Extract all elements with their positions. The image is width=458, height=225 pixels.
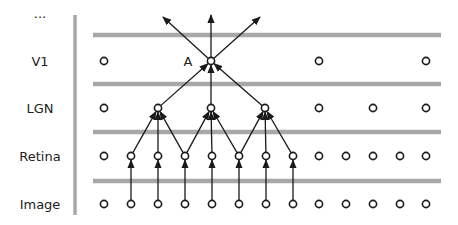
node-retina <box>369 152 376 159</box>
node-image <box>422 200 429 207</box>
node-image <box>127 200 134 207</box>
edge-arrow <box>265 112 266 152</box>
node-retina <box>289 152 296 159</box>
output-arrow <box>214 17 260 59</box>
node-lgn <box>154 104 161 111</box>
node-v1 <box>315 57 322 64</box>
node-image <box>154 200 161 207</box>
output-arrow <box>163 17 208 59</box>
node-retina <box>208 152 215 159</box>
node-retina <box>181 152 188 159</box>
layer-label-v1: V1 <box>31 54 48 69</box>
node-retina <box>154 152 161 159</box>
node-v1 <box>207 57 214 64</box>
node-lgn <box>207 104 214 111</box>
node-retina <box>342 152 349 159</box>
node-image <box>262 200 269 207</box>
node-v1 <box>100 57 107 64</box>
node-lgn <box>422 104 429 111</box>
node-image <box>315 200 322 207</box>
edge-arrow <box>211 112 212 152</box>
node-image <box>342 200 349 207</box>
node-image <box>100 200 107 207</box>
node-image <box>396 200 403 207</box>
node-lgn <box>369 104 376 111</box>
node-lgn <box>261 104 268 111</box>
node-label-a: A <box>184 54 193 69</box>
node-v1 <box>422 57 429 64</box>
node-lgn <box>315 104 322 111</box>
node-retina <box>100 152 107 159</box>
layer-label-top-ellipsis: ... <box>34 6 46 21</box>
node-retina <box>396 152 403 159</box>
layer-label-lgn: LGN <box>26 101 53 116</box>
node-retina <box>235 152 242 159</box>
node-retina <box>262 152 269 159</box>
node-retina <box>315 152 322 159</box>
node-image <box>235 200 242 207</box>
node-image <box>208 200 215 207</box>
node-retina <box>127 152 134 159</box>
node-image <box>289 200 296 207</box>
node-retina <box>422 152 429 159</box>
layer-labels: V1LGNRetinaImage <box>19 54 60 212</box>
node-image <box>181 200 188 207</box>
layer-label-retina: Retina <box>19 149 60 164</box>
feedforward-hierarchy-diagram: ... V1LGNRetinaImage A <box>0 0 458 225</box>
node-lgn <box>100 104 107 111</box>
node-image <box>369 200 376 207</box>
layer-label-image: Image <box>20 197 61 212</box>
